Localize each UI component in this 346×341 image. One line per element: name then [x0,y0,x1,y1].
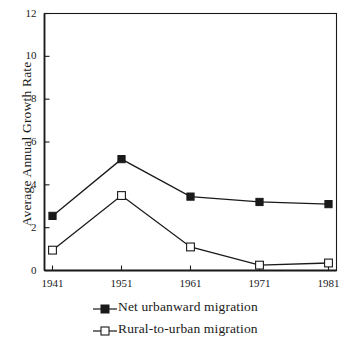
plot-frame [45,14,337,271]
open-square-icon [187,243,195,251]
filled-square-icon [118,156,125,163]
open-square-icon [256,261,264,269]
legend-item-rural-to-urban-migration: Rural-to-urban migration [0,318,346,340]
y-tick-label: 6 [7,135,37,147]
legend-item-net-urbanward-migration: Net urbanward migration [0,296,346,318]
open-square-icon [325,259,333,267]
filled-square-icon [187,193,194,200]
y-tick-label: 12 [7,7,37,19]
y-tick-label: 2 [7,221,37,233]
legend-label-net-urbanward-migration: Net urbanward migration [118,299,258,315]
x-tick-label: 1981 [306,277,346,289]
filled-square-icon [92,301,118,313]
filled-square-icon [325,201,332,208]
x-tick-label: 1941 [30,277,76,289]
y-tick-label: 8 [7,92,37,104]
series-line-0 [53,159,329,216]
y-tick-label: 0 [7,264,37,276]
filled-square-icon [49,212,56,219]
chart-legend: Net urbanward migration Rural-to-urban m… [0,296,346,340]
x-tick-label: 1951 [99,277,145,289]
open-square-icon [118,192,126,200]
y-tick-label: 4 [7,178,37,190]
filled-square-icon [256,198,263,205]
x-tick-label: 1971 [237,277,283,289]
series-line-1 [53,196,329,266]
legend-label-rural-to-urban-migration: Rural-to-urban migration [118,321,258,337]
open-square-icon [92,323,118,335]
chart-figure: Average Annual Growth Rate 024681012 194… [0,0,346,341]
series-layer [49,156,333,270]
line-chart-plot [0,0,346,341]
plot-border [45,14,337,271]
y-tick-label: 10 [7,49,37,61]
x-tick-label: 1961 [168,277,214,289]
open-square-icon [49,246,57,254]
